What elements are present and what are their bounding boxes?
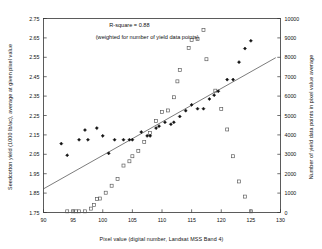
y-tick-label-left: 1.75 (14, 210, 40, 216)
y-tick-label-left: 2.75 (14, 16, 40, 22)
x-axis-title: Pixel value (digital number, Landsat MSS… (43, 236, 280, 242)
y-tick-label-right: 5000 (285, 113, 313, 119)
y-tick-label-right: 0 (285, 210, 313, 216)
x-tick-label: 125 (238, 217, 264, 223)
x-tick-label: 130 (268, 217, 294, 223)
y-tick-label-right: 9000 (285, 35, 313, 41)
y-axis-title-left: Seedcotton yield (1000 lb/ac), average a… (7, 19, 13, 215)
annotation-weighting-note: (weighted for number of yield data point… (96, 34, 199, 40)
x-tick-label: 110 (149, 217, 175, 223)
y-tick-label-left: 2.15 (14, 132, 40, 138)
x-tick-label: 100 (90, 217, 116, 223)
y-tick-label-right: 4000 (285, 132, 313, 138)
x-tick-label: 105 (119, 217, 145, 223)
y-tick-label-right: 8000 (285, 54, 313, 60)
y-tick-label-left: 1.85 (14, 190, 40, 196)
y-tick-label-left: 1.95 (14, 171, 40, 177)
y-tick-label-right: 10000 (285, 16, 313, 22)
chart-figure: Seedcotton yield (1000 lb/ac), average a… (0, 0, 322, 249)
x-tick-label: 115 (179, 217, 205, 223)
y-tick-label-left: 2.65 (14, 35, 40, 41)
x-tick-label: 90 (31, 217, 57, 223)
y-tick-label-right: 3000 (285, 151, 313, 157)
y-tick-label-right: 1000 (285, 190, 313, 196)
y-tick-label-right: 2000 (285, 171, 313, 177)
x-tick-label: 120 (208, 217, 234, 223)
y-tick-label-left: 2.25 (14, 113, 40, 119)
y-tick-label-left: 2.55 (14, 54, 40, 60)
x-tick-label: 95 (60, 217, 86, 223)
y-tick-label-right: 7000 (285, 74, 313, 80)
y-tick-label-left: 2.45 (14, 74, 40, 80)
y-tick-label-left: 2.05 (14, 151, 40, 157)
y-tick-label-left: 2.35 (14, 93, 40, 99)
annotation-r-square: R-square = 0.88 (109, 22, 149, 28)
y-tick-label-right: 6000 (285, 93, 313, 99)
